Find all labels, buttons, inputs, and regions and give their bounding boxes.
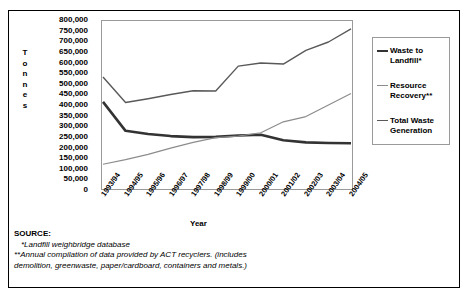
source-heading: SOURCE: [14,229,434,240]
legend-swatch [377,120,388,121]
source-note-3: demolition, greenwaste, paper/cardboard,… [14,261,434,272]
legend-item[interactable]: ResourceRecovery** [377,81,449,100]
legend-item[interactable]: Total WasteGeneration [377,116,449,135]
source-note-2: **Annual compilation of data provided by… [14,250,434,261]
y-tick-label: 200,000 [30,144,88,152]
y-tick-label: 800,000 [30,16,88,24]
source-note-1: *Landfill weighbridge database [14,240,434,251]
y-tick-label: 250,000 [30,133,88,141]
y-tick-label: 650,000 [30,48,88,56]
y-tick-label: 350,000 [30,112,88,120]
y-tick-label: 300,000 [30,122,88,130]
y-tick-label: 150,000 [30,154,88,162]
source-note: SOURCE: *Landfill weighbridge database *… [14,229,434,271]
series-canvas [102,21,352,189]
chart-legend: Waste toLandfill*ResourceRecovery**Total… [372,37,450,145]
y-tick-label: 100,000 [30,165,88,173]
series-line [103,93,351,164]
y-tick-label: 0 [30,186,88,194]
y-tick-label: 400,000 [30,101,88,109]
legend-label: ResourceRecovery** [390,81,449,100]
legend-label-line2: Generation [390,126,432,135]
y-tick-label: 750,000 [30,27,88,35]
y-tick-label: 50,000 [30,175,88,183]
y-tick-label: 700,000 [30,37,88,45]
legend-item[interactable]: Waste toLandfill* [377,46,449,65]
y-tick-label: 600,000 [30,59,88,67]
legend-label: Total WasteGeneration [390,116,449,135]
chart-figure: T o n n e s 800,000750,000700,000650,000… [0,0,468,296]
series-line [103,29,351,103]
legend-label-line2: Landfill* [390,56,422,65]
legend-label: Waste toLandfill* [390,46,449,65]
y-tick-label: 450,000 [30,90,88,98]
y-tick-label: 500,000 [30,80,88,88]
x-axis-title: Year [190,219,207,228]
legend-swatch [377,85,388,86]
plot-area [101,20,353,190]
legend-label-line2: Recovery** [390,91,432,100]
legend-swatch [377,50,388,52]
y-tick-label: 550,000 [30,69,88,77]
